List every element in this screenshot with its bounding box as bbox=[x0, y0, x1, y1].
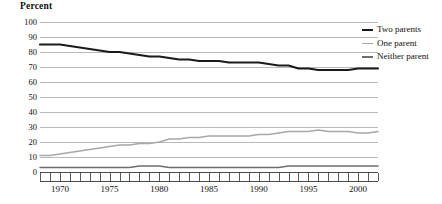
x-axis-tick-mark bbox=[149, 173, 150, 181]
y-axis-tick-label: 70 bbox=[29, 63, 38, 72]
line-chart: Percent 1009080706050403020100 197019751… bbox=[0, 0, 442, 204]
legend-line-icon bbox=[362, 29, 373, 31]
x-axis-tick-mark bbox=[348, 173, 349, 181]
x-axis-tick-mark bbox=[378, 173, 379, 181]
x-axis-tick-mark bbox=[298, 173, 299, 181]
x-axis-tick-mark bbox=[259, 173, 260, 181]
y-axis-tick-label: 30 bbox=[29, 123, 38, 132]
series-line bbox=[40, 45, 378, 71]
y-axis-tick-label: 50 bbox=[29, 93, 38, 102]
x-axis-tick-mark bbox=[328, 173, 329, 181]
y-axis-tick-label: 100 bbox=[24, 18, 37, 27]
y-axis-tick-label: 20 bbox=[29, 138, 38, 147]
x-axis-tick-mark bbox=[269, 173, 270, 181]
x-axis-tick-label: 1975 bbox=[101, 184, 119, 194]
x-axis-tick-mark bbox=[249, 173, 250, 181]
legend-item-label: Neither parent bbox=[377, 51, 429, 62]
series-line bbox=[40, 166, 378, 168]
x-axis-tick-mark bbox=[189, 173, 190, 181]
x-axis-tick-mark bbox=[338, 173, 339, 181]
x-axis-tick-mark bbox=[209, 173, 210, 181]
legend-line-icon bbox=[362, 56, 373, 58]
series-line bbox=[40, 130, 378, 156]
x-axis-tick-label: 1985 bbox=[200, 184, 218, 194]
x-axis-tick-mark bbox=[40, 173, 41, 181]
x-axis-tick-mark bbox=[179, 173, 180, 181]
x-axis-tick-mark bbox=[129, 173, 130, 181]
x-axis-tick-mark bbox=[318, 173, 319, 181]
x-axis-tick-mark bbox=[110, 173, 111, 181]
y-axis-tick-label: 90 bbox=[29, 33, 38, 42]
x-axis-tick-mark bbox=[139, 173, 140, 181]
legend-item[interactable]: Neither parent bbox=[362, 51, 442, 62]
y-axis-tick-label: 60 bbox=[29, 78, 38, 87]
x-axis-tick-label: 1990 bbox=[250, 184, 268, 194]
x-axis-tick-mark bbox=[239, 173, 240, 181]
legend-line-icon bbox=[362, 43, 373, 45]
plot-area: 1009080706050403020100 bbox=[40, 22, 378, 172]
x-axis-tick-mark bbox=[80, 173, 81, 181]
y-axis-title: Percent bbox=[20, 1, 52, 11]
legend-item[interactable]: Two parents bbox=[362, 24, 442, 35]
x-axis-tick-mark bbox=[100, 173, 101, 181]
y-axis-tick-label: 10 bbox=[29, 153, 38, 162]
x-axis-tick-mark bbox=[70, 173, 71, 181]
y-axis-tick-label: 40 bbox=[29, 108, 38, 117]
x-axis-tick-mark bbox=[199, 173, 200, 181]
x-axis-tick-label: 1970 bbox=[51, 184, 69, 194]
x-axis-tick-label: 1995 bbox=[299, 184, 317, 194]
x-axis-tick-mark bbox=[60, 173, 61, 181]
x-axis-tick-mark bbox=[219, 173, 220, 181]
x-axis-tick-mark bbox=[358, 173, 359, 181]
x-axis-tick-mark bbox=[50, 173, 51, 181]
x-axis-tick-mark bbox=[90, 173, 91, 181]
x-axis-tick-mark bbox=[120, 173, 121, 181]
x-axis-tick-mark bbox=[279, 173, 280, 181]
x-axis-tick-mark bbox=[289, 173, 290, 181]
legend-item-label: Two parents bbox=[377, 24, 421, 35]
x-axis-line bbox=[40, 181, 378, 182]
y-axis-tick-label: 0 bbox=[33, 168, 37, 177]
x-axis-tick-mark bbox=[169, 173, 170, 181]
x-axis-tick-label: 1980 bbox=[150, 184, 168, 194]
legend-item[interactable]: One parent bbox=[362, 38, 442, 49]
x-axis-tick-mark bbox=[159, 173, 160, 181]
x-axis-tick-mark bbox=[308, 173, 309, 181]
series-lines bbox=[40, 22, 378, 172]
y-axis-tick-label: 80 bbox=[29, 48, 38, 57]
x-axis-tick-label: 2000 bbox=[349, 184, 367, 194]
x-axis-tick-mark bbox=[229, 173, 230, 181]
x-axis-tick-mark bbox=[368, 173, 369, 181]
legend-item-label: One parent bbox=[377, 38, 417, 49]
chart-legend: Two parentsOne parentNeither parent bbox=[362, 24, 442, 65]
